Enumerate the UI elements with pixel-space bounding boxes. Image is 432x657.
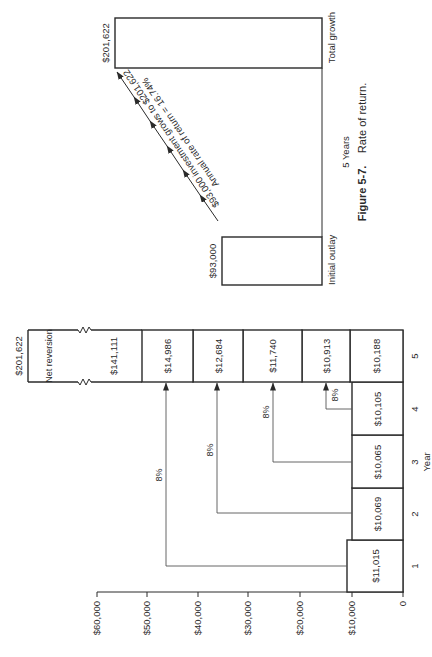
year5-total-label: $201,622 xyxy=(13,336,24,376)
net-reversion-label: Net reversion xyxy=(44,329,54,383)
y-tick-label: $60,000 xyxy=(91,601,102,635)
bar-value-year-4: $10,105 xyxy=(372,392,383,426)
y-axis-ticks xyxy=(97,592,403,597)
bar-value-year-3: $10,065 xyxy=(372,445,383,479)
y-tick-label: $50,000 xyxy=(141,601,152,635)
total-growth-box xyxy=(115,18,322,68)
reinvestment-arrows: 8% 8% 8% 8% xyxy=(154,383,352,566)
year-label: 5 xyxy=(409,353,420,358)
year-label: 3 xyxy=(409,459,420,464)
y-tick-label: 0 xyxy=(397,601,408,606)
year-label: 2 xyxy=(409,511,420,516)
growth-arrow xyxy=(117,72,218,221)
stack-value: $10,913 xyxy=(321,339,332,373)
stack-value: $12,684 xyxy=(213,339,224,373)
rate-label: 8% xyxy=(154,468,164,481)
figure-title: Rate of return. xyxy=(356,83,368,153)
figure-caption: Figure 5-7. Rate of return. xyxy=(352,83,369,221)
initial-outlay-label: Initial outlay xyxy=(326,235,337,285)
stack-value: $10,188 xyxy=(371,339,382,373)
y-tick-label: $40,000 xyxy=(192,601,203,635)
bar-year-5-stack: $10,188 $10,913 $11,740 $12,684 $14,986 … xyxy=(13,327,403,385)
period-label: 5 Years xyxy=(340,136,351,168)
rotated-figure-page: 0 $10,000 $20,000 $30,000 $40,000 $50,00… xyxy=(0,0,432,657)
bar-chart: 0 $10,000 $20,000 $30,000 $40,000 $50,00… xyxy=(13,327,432,635)
bar-value-year-2: $10,069 xyxy=(372,497,383,531)
x-axis-labels: 1 2 3 4 5 Year xyxy=(409,353,432,568)
rate-label: 8% xyxy=(330,388,340,401)
rate-label: 8% xyxy=(261,405,271,418)
axis-break-icon xyxy=(78,379,91,385)
rate-label: 8% xyxy=(205,443,215,456)
rate-of-return-diagram: $93,000 $201,622 Initial outlay Total gr… xyxy=(100,12,369,285)
y-tick-label: $20,000 xyxy=(294,601,305,635)
y-tick-label: $30,000 xyxy=(242,601,253,635)
final-value-label: $201,622 xyxy=(100,23,111,63)
year-bars: $11,015 $10,069 $10,065 $10,105 xyxy=(347,382,403,592)
x-axis-title: Year xyxy=(421,452,432,471)
axis-break-icon xyxy=(78,327,91,333)
figure-number: Figure 5-7. xyxy=(356,166,368,222)
figure-canvas: 0 $10,000 $20,000 $30,000 $40,000 $50,00… xyxy=(0,0,432,657)
y-axis: 0 $10,000 $20,000 $30,000 $40,000 $50,00… xyxy=(91,592,408,635)
bar-value-year-1: $11,015 xyxy=(370,549,381,583)
rate-annotation: Annual rate of return = 16.74% xyxy=(139,75,221,189)
year-label: 1 xyxy=(409,563,420,568)
initial-outlay-box xyxy=(222,237,322,285)
growth-annotation: $93,000 investment grows to $201,622 xyxy=(121,68,222,210)
y-tick-label: $10,000 xyxy=(346,601,357,635)
stack-value: $141,111 xyxy=(108,337,119,375)
total-growth-label: Total growth xyxy=(326,12,337,63)
stack-value: $14,986 xyxy=(162,339,173,373)
initial-value-label: $93,000 xyxy=(207,244,218,278)
stack-value: $11,740 xyxy=(267,339,278,373)
year-label: 4 xyxy=(409,406,420,411)
